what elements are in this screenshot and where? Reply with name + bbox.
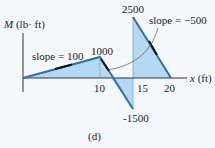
x-tick-15: 15 <box>137 82 149 94</box>
diagram-canvas: M (lb· ft) x (ft) 10 15 20 1000 2500 -15… <box>0 0 215 148</box>
slope-annotation-100: slope = 100 <box>32 50 84 62</box>
figure-caption: (d) <box>88 130 101 143</box>
x-tick-20: 20 <box>164 82 176 94</box>
value-label-2500: 2500 <box>122 3 145 15</box>
slope-annotation-neg500: slope = −500 <box>149 14 207 26</box>
x-axis-label: x (ft) <box>189 72 212 85</box>
moment-diagram: M (lb· ft) x (ft) 10 15 20 1000 2500 -15… <box>0 0 215 148</box>
y-axis-label: M (lb· ft) <box>3 18 45 31</box>
x-tick-10: 10 <box>94 82 106 94</box>
value-label-neg1500: -1500 <box>123 112 149 124</box>
value-label-1000: 1000 <box>91 45 114 57</box>
